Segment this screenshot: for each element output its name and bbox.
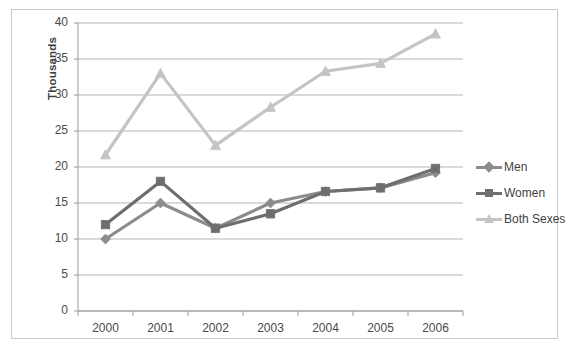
x-tick-label: 2006 [413, 321, 459, 335]
data-point-marker [156, 68, 166, 77]
series-both-sexes [101, 29, 441, 159]
y-tick-label: 40 [40, 15, 68, 29]
chart-plot-area: Thousands 0510152025303540 2000200120022… [0, 0, 587, 364]
legend-item-women[interactable]: Women [476, 180, 576, 206]
legend-label: Women [504, 186, 545, 200]
data-point-marker [266, 210, 274, 218]
y-tick-label: 35 [40, 51, 68, 65]
data-point-marker [211, 224, 219, 232]
data-point-marker [321, 187, 329, 195]
data-point-marker [156, 177, 164, 185]
data-point-marker [431, 164, 439, 172]
x-tick-label: 2001 [138, 321, 184, 335]
y-tick-label: 30 [40, 87, 68, 101]
legend-item-men[interactable]: Men [476, 154, 576, 180]
y-tick-label: 0 [40, 303, 68, 317]
x-tick-label: 2004 [303, 321, 349, 335]
data-point-marker [431, 29, 441, 38]
y-tick-label: 20 [40, 159, 68, 173]
legend-swatch-square-icon [476, 186, 502, 200]
legend-label: Both Sexes [504, 212, 565, 226]
chart-legend: MenWomenBoth Sexes [476, 154, 576, 232]
series-line [106, 34, 436, 155]
legend-swatch-triangle-icon [476, 212, 502, 226]
legend-label: Men [504, 160, 527, 174]
data-point-marker [266, 198, 276, 208]
y-tick-label: 25 [40, 123, 68, 137]
y-tick-label: 10 [40, 231, 68, 245]
data-point-marker [101, 220, 109, 228]
y-tick-label: 15 [40, 195, 68, 209]
gridlines [78, 23, 463, 311]
x-tick-label: 2002 [193, 321, 239, 335]
legend-swatch-diamond-icon [476, 160, 502, 174]
x-tick-label: 2005 [358, 321, 404, 335]
x-tick-label: 2003 [248, 321, 294, 335]
y-tick-label: 5 [40, 267, 68, 281]
data-point-marker [376, 184, 384, 192]
x-tick-label: 2000 [83, 321, 129, 335]
series-men [101, 168, 441, 244]
legend-item-both-sexes[interactable]: Both Sexes [476, 206, 576, 232]
axis-lines [74, 23, 463, 316]
